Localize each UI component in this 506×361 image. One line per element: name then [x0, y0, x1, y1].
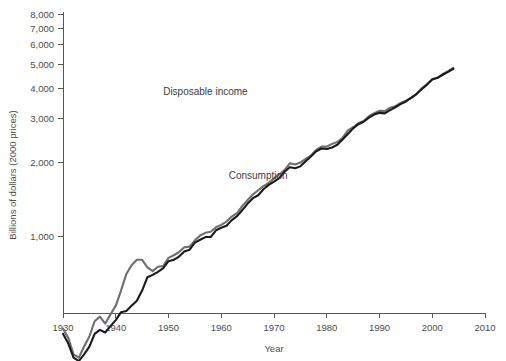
annotation-disposable-income: Disposable income	[163, 86, 248, 97]
y-tick-label: 2,000	[30, 157, 54, 168]
y-tick-label: 5,000	[30, 59, 54, 70]
y-tick-label: 3,000	[30, 113, 54, 124]
x-axis-title: Year	[264, 343, 283, 354]
series-line-disposable-income	[63, 68, 453, 358]
x-tick-label: 2010	[474, 322, 495, 333]
series-lines	[63, 68, 453, 361]
x-tick-label: 1960	[211, 322, 232, 333]
y-axis-title: Billions of dollars (2000 prices)	[7, 110, 18, 239]
chart-container: 1,0002,0003,0004,0005,0006,0007,0008,000…	[0, 0, 506, 361]
series-line-consumption	[63, 69, 453, 361]
x-tick-label: 1950	[158, 322, 179, 333]
x-tick-label: 2000	[422, 322, 443, 333]
y-tick-label: 1,000	[30, 231, 54, 242]
y-axis-ticks: 1,0002,0003,0004,0005,0006,0007,0008,000	[30, 9, 63, 242]
y-tick-label: 4,000	[30, 83, 54, 94]
y-tick-label: 6,000	[30, 39, 54, 50]
x-tick-label: 1930	[52, 322, 73, 333]
x-tick-label: 1990	[369, 322, 390, 333]
x-tick-label: 1980	[316, 322, 337, 333]
x-tick-label: 1970	[263, 322, 284, 333]
annotation-consumption: Consumption	[229, 170, 288, 181]
y-tick-label: 8,000	[30, 9, 54, 20]
y-tick-label: 7,000	[30, 23, 54, 34]
series-annotations: Disposable incomeConsumption	[163, 86, 287, 181]
chart-plot: 1,0002,0003,0004,0005,0006,0007,0008,000…	[0, 0, 506, 361]
